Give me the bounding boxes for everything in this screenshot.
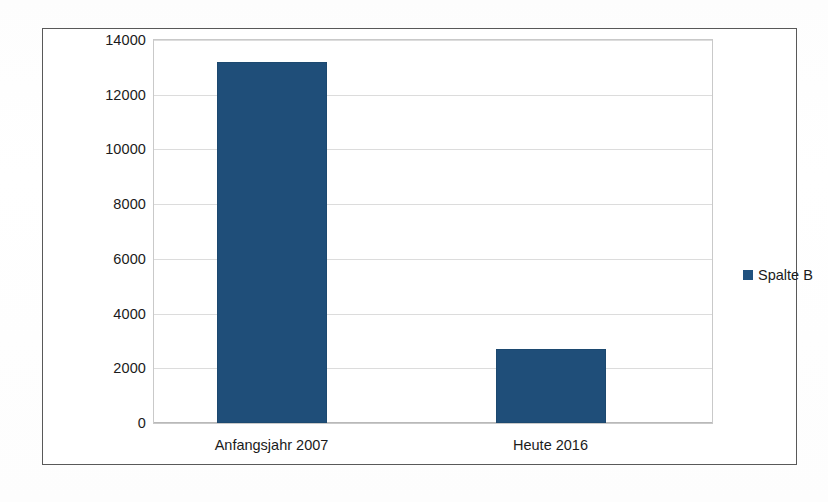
- chart-frame: 02000400060008000100001200014000Anfangsj…: [42, 28, 797, 465]
- bar-2: [496, 349, 606, 423]
- x-axis-tick-label: Heute 2016: [513, 437, 588, 453]
- gridline-14000: [154, 40, 712, 41]
- y-axis-tick-label: 4000: [113, 306, 146, 322]
- scanned-chart-page: 02000400060008000100001200014000Anfangsj…: [0, 0, 828, 502]
- chart-legend: Spalte B: [743, 267, 813, 283]
- x-axis-tick-label: Anfangsjahr 2007: [215, 437, 329, 453]
- y-axis-tick-label: 6000: [113, 251, 146, 267]
- bar-1: [217, 62, 327, 423]
- y-axis-tick-label: 8000: [113, 196, 146, 212]
- y-axis-tick-label: 10000: [105, 141, 146, 157]
- y-axis-tick-label: 12000: [105, 87, 146, 103]
- y-axis-tick-label: 2000: [113, 360, 146, 376]
- plot-area: 02000400060008000100001200014000Anfangsj…: [153, 39, 713, 424]
- legend-label-spalte-b: Spalte B: [758, 267, 813, 283]
- y-axis-tick-label: 14000: [105, 32, 146, 48]
- legend-swatch-icon: [743, 270, 753, 280]
- y-axis-tick-label: 0: [138, 415, 146, 431]
